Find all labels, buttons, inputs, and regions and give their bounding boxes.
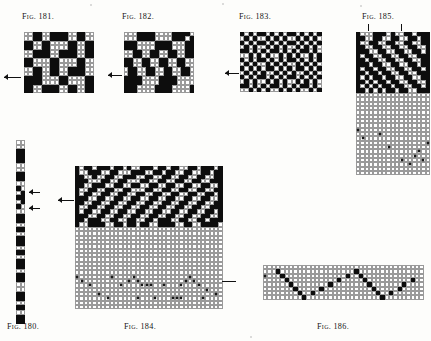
- tick-mark-fig-185-left: [368, 24, 369, 31]
- pattern-grid-fig-186: [263, 265, 424, 300]
- caption-fig-185: Fig. 185.: [362, 12, 394, 21]
- pattern-grid-fig-182: [124, 32, 194, 93]
- caption-fig-181-text: Fig. 181.: [22, 12, 54, 21]
- scan-speck: [360, 5, 362, 7]
- filled-cell: [317, 88, 321, 92]
- empty-cell: [218, 305, 222, 309]
- caption-fig-186: Fig. 186.: [317, 322, 349, 331]
- pointer-arrow-fig-181: [4, 77, 21, 78]
- pattern-grid-fig-181: [24, 32, 94, 93]
- caption-fig-185-text: Fig. 185.: [362, 12, 394, 21]
- empty-cell: [426, 171, 430, 175]
- plate-page: Fig. 181. Fig. 182. Fig. 183. Fig. 185. …: [0, 0, 431, 341]
- caption-fig-184-text: Fig. 184.: [124, 322, 156, 331]
- empty-cell: [419, 295, 423, 299]
- scan-speck: [90, 4, 92, 6]
- caption-fig-181: Fig. 181.: [22, 12, 54, 21]
- tick-mark-fig-185-right: [401, 24, 402, 31]
- caption-fig-186-text: Fig. 186.: [317, 322, 349, 331]
- caption-fig-182-text: Fig. 182.: [122, 12, 154, 21]
- filled-cell: [21, 319, 26, 324]
- pattern-grid-fig-183: [240, 32, 322, 92]
- filled-cell: [90, 89, 94, 93]
- pattern-grid-fig-180: [16, 140, 25, 324]
- pointer-rule-fig-184-right: [222, 281, 236, 282]
- pointer-arrow-fig-183: [225, 73, 239, 74]
- caption-fig-184: Fig. 184.: [124, 322, 156, 331]
- pointer-arrow-fig-180-lower: [29, 208, 40, 209]
- pointer-arrow-fig-180-upper: [29, 192, 40, 193]
- pointer-arrow-fig-184: [58, 200, 74, 201]
- pointer-arrow-fig-182: [108, 75, 122, 76]
- scan-speck: [222, 3, 224, 5]
- caption-fig-183-text: Fig. 183.: [239, 12, 271, 21]
- pattern-grid-fig-185: [356, 32, 430, 175]
- caption-fig-182: Fig. 182.: [122, 12, 154, 21]
- pattern-grid-fig-184: [75, 166, 223, 309]
- caption-fig-183: Fig. 183.: [239, 12, 271, 21]
- filled-cell: [190, 89, 194, 93]
- scan-speck: [250, 336, 252, 338]
